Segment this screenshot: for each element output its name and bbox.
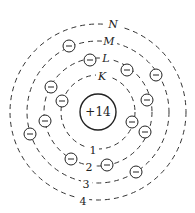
shell-1-label: 1 (90, 144, 97, 157)
shell-2-label: 2 (86, 161, 93, 174)
electron-icon (150, 69, 162, 81)
electron-icon (141, 94, 153, 106)
electron-icon (39, 115, 51, 127)
shell-K-label: K (97, 70, 107, 83)
shell-4-label: 4 (80, 195, 87, 208)
shell-M-label: M (102, 35, 115, 48)
electron-icon (63, 40, 75, 52)
shell-3-label: 3 (83, 178, 90, 191)
electron-icon (101, 159, 113, 171)
electron-icon (139, 126, 151, 138)
nucleus: +14 (80, 94, 116, 130)
electron-icon (126, 116, 138, 128)
electron-icon (24, 128, 36, 140)
electron-icon (56, 95, 68, 107)
electron-icon (84, 54, 96, 66)
atom-diagram: K L M N 1 2 3 4 +14 (0, 0, 195, 213)
electron-icon (45, 81, 57, 93)
electron-icon (65, 153, 77, 165)
electron-icon (130, 166, 142, 178)
shell-L-label: L (101, 52, 109, 65)
nucleus-charge-label: +14 (85, 105, 111, 119)
electron-icon (121, 64, 133, 76)
shell-N-label: N (107, 18, 118, 31)
